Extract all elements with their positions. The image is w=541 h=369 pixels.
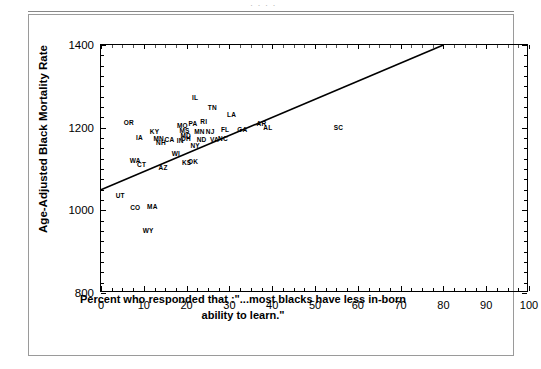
x-tick-label: 100 bbox=[520, 299, 538, 311]
y-tick-label: 1400 bbox=[68, 39, 94, 51]
x-tick bbox=[508, 288, 509, 291]
x-axis-title-line-1: Percent who responded that :"...most bla… bbox=[29, 291, 457, 307]
x-tick-top bbox=[443, 45, 444, 49]
y-tick-right bbox=[524, 190, 527, 191]
y-tick-right bbox=[524, 107, 527, 108]
x-tick-top bbox=[476, 45, 477, 48]
data-point-label: FL bbox=[221, 125, 229, 132]
x-tick-top bbox=[283, 45, 284, 48]
x-tick-top bbox=[208, 45, 209, 48]
x-tick-top bbox=[433, 45, 434, 48]
y-tick bbox=[101, 210, 106, 211]
x-tick-top bbox=[133, 45, 134, 48]
y-tick-right bbox=[524, 272, 527, 273]
x-tick bbox=[518, 288, 519, 291]
y-axis-title: Age-Adjusted Black Mortality Rate bbox=[35, 15, 51, 263]
x-tick-top bbox=[176, 45, 177, 48]
x-tick bbox=[497, 288, 498, 291]
data-point-label: SC bbox=[334, 123, 343, 130]
x-tick-top bbox=[326, 45, 327, 48]
y-tick-right bbox=[522, 128, 527, 129]
x-axis-title: Percent who responded that :"...most bla… bbox=[29, 291, 457, 323]
x-tick-top bbox=[240, 45, 241, 48]
x-tick-top bbox=[294, 45, 295, 48]
y-tick-right bbox=[524, 76, 527, 77]
x-tick-top bbox=[465, 45, 466, 48]
y-axis-title-text: Age-Adjusted Black Mortality Rate bbox=[37, 45, 49, 233]
y-tick bbox=[101, 272, 104, 273]
data-point-label: OK bbox=[188, 157, 198, 164]
y-tick bbox=[101, 55, 104, 56]
y-tick-right bbox=[524, 283, 527, 284]
data-point-label: TN bbox=[208, 104, 217, 111]
y-tick bbox=[101, 97, 104, 98]
y-tick bbox=[101, 231, 104, 232]
x-tick-top bbox=[144, 45, 145, 49]
x-tick-top bbox=[219, 45, 220, 48]
data-point-label: NJ bbox=[206, 128, 215, 135]
data-point-label: AZ bbox=[159, 164, 168, 171]
x-tick-top bbox=[304, 45, 305, 48]
x-tick-top bbox=[369, 45, 370, 48]
y-tick-right bbox=[524, 221, 527, 222]
data-point-label: AL bbox=[263, 123, 272, 130]
y-tick bbox=[101, 66, 104, 67]
y-tick bbox=[101, 252, 104, 253]
y-tick-right bbox=[524, 66, 527, 67]
data-point-label: CT bbox=[137, 160, 146, 167]
y-tick bbox=[101, 159, 104, 160]
data-point-label: UT bbox=[116, 192, 125, 199]
y-tick bbox=[101, 190, 104, 191]
x-tick-top bbox=[165, 45, 166, 48]
x-tick-top bbox=[122, 45, 123, 48]
y-tick-right bbox=[524, 97, 527, 98]
y-tick-right bbox=[524, 179, 527, 180]
data-point-label: GA bbox=[237, 126, 247, 133]
x-tick-top bbox=[272, 45, 273, 49]
y-tick-right bbox=[524, 138, 527, 139]
scatter-plot-area: 0102030405060708090100 800100012001400 O… bbox=[100, 44, 528, 292]
x-tick-top bbox=[390, 45, 391, 48]
data-point-label: KY bbox=[150, 127, 159, 134]
y-tick bbox=[101, 138, 104, 139]
data-point-label: LA bbox=[227, 110, 236, 117]
y-tick bbox=[101, 221, 104, 222]
page-top-cropped-text: · · · · bbox=[250, 0, 450, 9]
y-tick bbox=[101, 169, 104, 170]
data-point-label: NY bbox=[190, 142, 199, 149]
y-tick-right bbox=[524, 159, 527, 160]
x-tick-top bbox=[529, 45, 530, 49]
data-point-label: IA bbox=[136, 134, 143, 141]
x-tick bbox=[486, 286, 487, 291]
x-tick-top bbox=[401, 45, 402, 49]
y-tick bbox=[101, 76, 104, 77]
x-tick-top bbox=[422, 45, 423, 48]
y-tick-right bbox=[522, 210, 527, 211]
data-point-label: WY bbox=[143, 227, 154, 234]
data-point-label: IN bbox=[177, 137, 184, 144]
y-tick-right bbox=[524, 262, 527, 263]
y-tick bbox=[101, 128, 106, 129]
x-tick-top bbox=[336, 45, 337, 48]
y-tick-right bbox=[524, 252, 527, 253]
x-tick-top bbox=[197, 45, 198, 48]
y-tick-right bbox=[524, 117, 527, 118]
x-tick-top bbox=[262, 45, 263, 48]
x-tick-top bbox=[486, 45, 487, 49]
x-tick bbox=[465, 288, 466, 291]
data-point-label: IL bbox=[192, 94, 198, 101]
data-point-label: PA bbox=[189, 119, 198, 126]
x-tick-top bbox=[358, 45, 359, 49]
x-tick-top bbox=[251, 45, 252, 48]
x-axis-title-line-2: ability to learn." bbox=[29, 307, 457, 323]
x-tick-top bbox=[112, 45, 113, 48]
data-point-label: CA bbox=[165, 136, 175, 143]
data-point-label: CO bbox=[130, 203, 140, 210]
data-point-label: MA bbox=[147, 202, 158, 209]
x-tick-label: 90 bbox=[480, 299, 492, 311]
y-tick-right bbox=[524, 55, 527, 56]
y-tick-right bbox=[522, 293, 527, 294]
x-tick-top bbox=[155, 45, 156, 48]
x-tick-top bbox=[508, 45, 509, 48]
figure-container: Age-Adjusted Black Mortality Rate 010203… bbox=[28, 14, 514, 356]
